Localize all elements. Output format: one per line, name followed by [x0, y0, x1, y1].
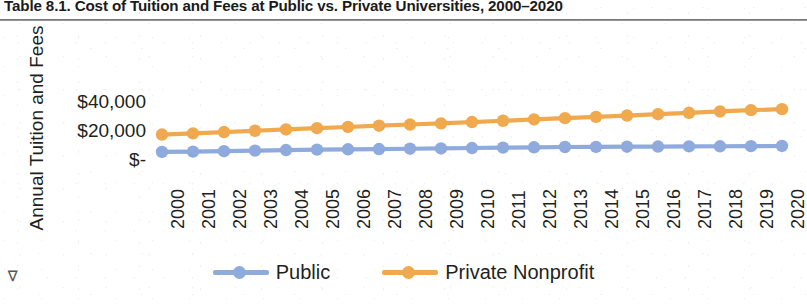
data-point[interactable]	[311, 143, 323, 155]
x-tick-label: 2019	[758, 159, 776, 229]
x-tick-label: 2000	[169, 159, 187, 229]
data-point[interactable]	[528, 113, 540, 125]
data-point[interactable]	[435, 117, 447, 129]
y-tick-label: $20,000	[30, 121, 146, 140]
data-point[interactable]	[342, 121, 354, 133]
data-point[interactable]	[497, 115, 509, 127]
x-tick-label: 2009	[448, 159, 466, 229]
x-tick-label: 2004	[293, 159, 311, 229]
x-tick-label: 2007	[386, 159, 404, 229]
data-point[interactable]	[280, 144, 292, 156]
data-point[interactable]	[280, 123, 292, 135]
data-point[interactable]	[683, 140, 695, 152]
data-point[interactable]	[404, 118, 416, 130]
data-point[interactable]	[776, 103, 788, 115]
x-tick-label: 2010	[479, 159, 497, 229]
chart-legend: Public Private Nonprofit	[0, 255, 807, 289]
data-point[interactable]	[435, 142, 447, 154]
data-point[interactable]	[187, 127, 199, 139]
legend-label: Private Nonprofit	[445, 261, 594, 284]
data-point[interactable]	[218, 126, 230, 138]
data-point[interactable]	[652, 108, 664, 120]
data-point[interactable]	[652, 140, 664, 152]
data-point[interactable]	[156, 128, 168, 140]
x-tick-label: 2016	[665, 159, 683, 229]
data-point[interactable]	[249, 125, 261, 137]
data-point[interactable]	[311, 122, 323, 134]
legend-item-private-nonprofit[interactable]: Private Nonprofit	[382, 261, 594, 284]
x-tick-label: 2008	[417, 159, 435, 229]
plot-area	[148, 21, 796, 166]
data-point[interactable]	[373, 143, 385, 155]
series-svg	[148, 21, 796, 166]
data-point[interactable]	[621, 141, 633, 153]
y-tick-label: $40,000	[30, 92, 146, 111]
x-tick-label: 2013	[572, 159, 590, 229]
data-point[interactable]	[466, 116, 478, 128]
x-tick-label: 2020	[789, 159, 807, 229]
data-point[interactable]	[714, 140, 726, 152]
legend-label: Public	[276, 261, 330, 284]
y-axis-tick-labels: $40,000 $20,000 $-	[30, 21, 146, 201]
data-point[interactable]	[404, 143, 416, 155]
data-point[interactable]	[187, 145, 199, 157]
line-marker-icon	[382, 264, 438, 280]
data-point[interactable]	[559, 141, 571, 153]
x-tick-label: 2002	[231, 159, 249, 229]
x-tick-label: 2011	[510, 159, 528, 229]
x-tick-label: 2001	[200, 159, 218, 229]
data-point[interactable]	[559, 112, 571, 124]
data-point[interactable]	[342, 143, 354, 155]
data-point[interactable]	[156, 146, 168, 158]
data-point[interactable]	[745, 140, 757, 152]
data-point[interactable]	[714, 105, 726, 117]
line-marker-icon	[213, 264, 269, 280]
x-tick-label: 2015	[634, 159, 652, 229]
chart-container: Annual Tuition and Fees $40,000 $20,000 …	[0, 21, 807, 305]
x-tick-label: 2012	[541, 159, 559, 229]
y-tick-label: $-	[30, 150, 146, 169]
data-point[interactable]	[683, 107, 695, 119]
data-point[interactable]	[218, 145, 230, 157]
data-point[interactable]	[528, 141, 540, 153]
legend-item-public[interactable]: Public	[213, 261, 330, 284]
data-point[interactable]	[776, 140, 788, 152]
data-point[interactable]	[621, 109, 633, 121]
data-point[interactable]	[745, 104, 757, 116]
x-tick-label: 2018	[727, 159, 745, 229]
data-point[interactable]	[466, 142, 478, 154]
x-tick-label: 2006	[355, 159, 373, 229]
x-tick-label: 2014	[603, 159, 621, 229]
data-point[interactable]	[590, 141, 602, 153]
page-title: Table 8.1. Cost of Tuition and Fees at P…	[4, 0, 804, 16]
scan-artifact-mark: ⊲	[2, 269, 23, 283]
x-tick-label: 2017	[696, 159, 714, 229]
data-point[interactable]	[497, 141, 509, 153]
data-point[interactable]	[590, 111, 602, 123]
x-tick-label: 2005	[324, 159, 342, 229]
data-point[interactable]	[249, 144, 261, 156]
data-point[interactable]	[373, 119, 385, 131]
x-axis-tick-labels: 2000200120022003200420052006200720082009…	[148, 167, 796, 251]
x-tick-label: 2003	[262, 159, 280, 229]
